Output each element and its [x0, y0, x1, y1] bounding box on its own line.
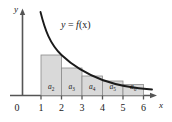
x-tick-label-5: 5: [121, 102, 126, 113]
y-axis-arrowhead: [20, 9, 25, 16]
bar-label-a5-sub: 5: [113, 86, 116, 92]
x-tick-label-4: 4: [100, 102, 105, 113]
rectangle-approximation-figure: 1 2 3 4 5 6 0 y x a2 a3 a4 a5: [0, 0, 172, 122]
bar-label-a2-sub: 2: [52, 86, 55, 92]
x-axis-arrowhead: [150, 93, 157, 98]
bar-label-a6-sub: 6: [134, 86, 137, 92]
x-axis-label: x: [158, 100, 163, 110]
y-axis-label: y: [13, 4, 18, 14]
curve-label-equals: =: [65, 19, 76, 30]
x-tick-label-3: 3: [80, 102, 85, 113]
origin-label: 0: [15, 102, 20, 113]
bar-label-a3-sub: 3: [72, 86, 75, 92]
y-axis: [20, 9, 25, 97]
bar-label-a6: a6: [130, 82, 137, 92]
x-tick-label-6: 6: [141, 102, 146, 113]
curve-equation-label: y = f(x): [60, 19, 91, 31]
x-tick-label-2: 2: [59, 102, 64, 113]
bar-label-a4-sub: 4: [93, 86, 96, 92]
x-tick-label-1: 1: [39, 102, 44, 113]
x-tick-labels: 1 2 3 4 5 6: [39, 102, 147, 113]
curve-label-arg: (x): [79, 19, 91, 31]
